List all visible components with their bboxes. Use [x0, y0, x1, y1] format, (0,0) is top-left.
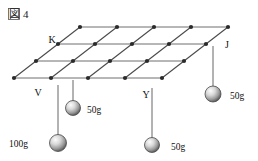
- weight-mass-label: 50g: [171, 142, 186, 152]
- figure-container: 図 4 100g50g50g50g KJVY: [0, 0, 258, 161]
- weight-mass-label: 50g: [230, 91, 245, 101]
- weight-mass-label: 100g: [9, 139, 28, 149]
- grid-node: [71, 59, 75, 63]
- figure-4-diagram: 図 4 100g50g50g50g KJVY: [0, 0, 258, 161]
- grid-node: [49, 76, 53, 80]
- grid-node: [123, 76, 127, 80]
- weight-ball: [50, 135, 67, 152]
- grid-node: [108, 59, 112, 63]
- grid-node: [130, 42, 134, 46]
- point-label-Y: Y: [142, 89, 149, 100]
- weight-ball: [66, 101, 81, 116]
- weight-ball: [205, 86, 221, 102]
- grid-node: [34, 59, 38, 63]
- point-label-J: J: [225, 39, 229, 50]
- grid-node: [226, 25, 230, 29]
- caption-mark: 図: [9, 8, 20, 20]
- grid-node: [93, 42, 97, 46]
- grid-node: [78, 25, 82, 29]
- figure-background: [0, 0, 258, 161]
- point-label-K: K: [48, 34, 56, 45]
- grid-node: [56, 42, 60, 46]
- grid-node: [204, 42, 208, 46]
- caption-number: 4: [23, 8, 29, 20]
- grid-node: [12, 76, 16, 80]
- grid-node: [160, 76, 164, 80]
- grid-node: [189, 25, 193, 29]
- grid-node: [167, 42, 171, 46]
- grid-node: [145, 59, 149, 63]
- grid-node: [86, 76, 90, 80]
- weight-mass-label: 50g: [87, 105, 102, 115]
- grid-node: [152, 25, 156, 29]
- point-label-V: V: [34, 87, 42, 98]
- grid-node: [115, 25, 119, 29]
- grid-node: [182, 59, 186, 63]
- weight-ball: [145, 138, 160, 153]
- figure-caption: 図 4: [9, 8, 30, 20]
